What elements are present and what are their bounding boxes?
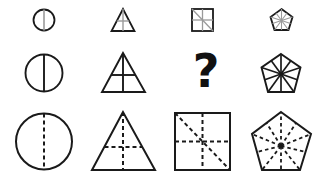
cell-r1c4-small-pentagon (271, 9, 293, 30)
cell-r1c3-small-square (192, 9, 213, 31)
cell-r3c4-large-pentagon (252, 112, 311, 170)
puzzle-figure-grid (0, 0, 324, 178)
cell-r2c2-medium-triangle (102, 53, 145, 92)
cell-r3c3-large-square (175, 113, 230, 170)
cell-r1c2-small-triangle (112, 9, 135, 31)
cell-r3c2-large-triangle (92, 112, 155, 170)
cell-r1c1-small-circle (34, 10, 55, 31)
cell-r2c1-medium-circle (26, 55, 63, 92)
cell-r2c4-medium-pentagon (262, 54, 301, 92)
cell-r3c1-large-circle (16, 114, 72, 170)
question-mark: ? (188, 44, 224, 98)
